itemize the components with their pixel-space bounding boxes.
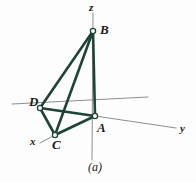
edge-BA [93,31,95,116]
point-label-B: B [100,23,109,36]
axis-label-x: x [30,136,36,147]
axis-label-y: y [180,123,185,134]
point-label-D: D [29,95,38,108]
joint-node-B [90,28,95,33]
point-label-C: C [52,138,61,151]
edge-DC [40,108,55,135]
figure-caption: (a) [88,160,102,175]
axis-line-y [95,116,176,128]
axis-label-z: z [89,2,93,13]
figure-container: zyxBDCA (a) [0,0,196,182]
joint-node-A [92,113,97,118]
geometry-diagram [0,0,196,182]
point-label-A: A [97,121,106,134]
edge-DA [40,108,95,116]
member-edges-group [40,31,95,135]
edge-BD [40,31,93,108]
